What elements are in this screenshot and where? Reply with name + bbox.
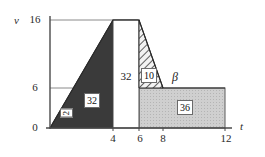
velocity-time-chart: v 16 6 0 4 6 8 12 t xyxy=(0,0,265,157)
area-label-cruise-rectangle: 32 xyxy=(113,70,139,82)
area-label-small-triangle: 2 xyxy=(60,109,73,118)
area-label-decel-triangle: 10 xyxy=(141,68,157,83)
angle-beta-label: β xyxy=(172,70,178,85)
area-label-base-rectangle: 36 xyxy=(177,100,193,115)
area-label-rise-triangle: 32 xyxy=(84,93,100,108)
